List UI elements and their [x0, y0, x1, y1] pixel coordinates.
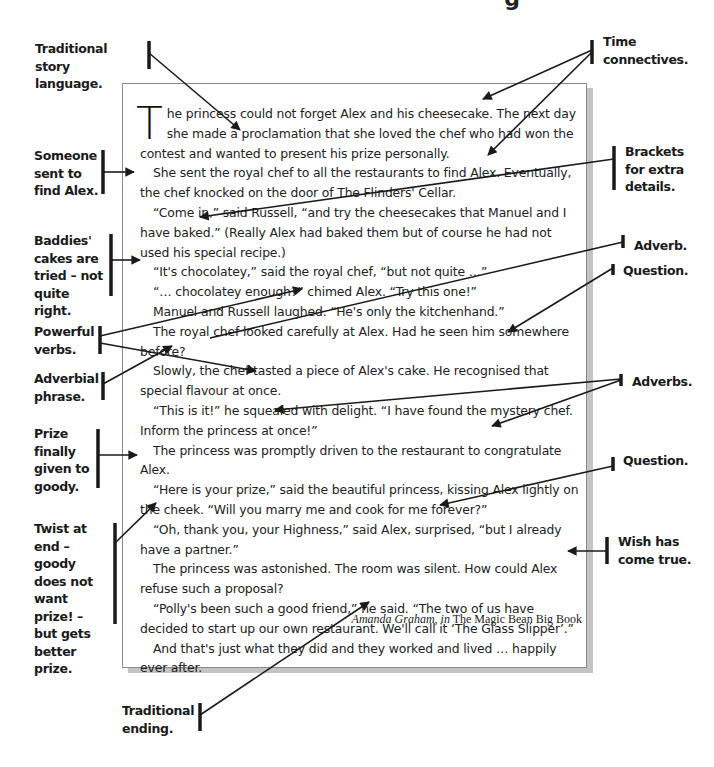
annotation-arrows	[0, 0, 714, 767]
